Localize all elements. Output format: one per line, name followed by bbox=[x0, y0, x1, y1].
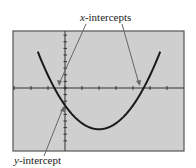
parabola-figure: x-intercepts y-intercept bbox=[0, 0, 196, 168]
x-intercepts-label: x-intercepts bbox=[80, 11, 131, 23]
calculator-screen bbox=[0, 0, 196, 168]
y-intercept-suffix: -intercept bbox=[19, 154, 61, 166]
screen-frame bbox=[13, 31, 184, 151]
y-intercept-label: y-intercept bbox=[14, 154, 61, 166]
x-intercepts-suffix: -intercepts bbox=[85, 11, 131, 23]
